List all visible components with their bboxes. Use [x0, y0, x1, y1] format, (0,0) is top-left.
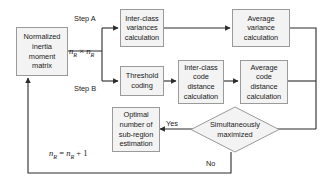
flowchart-diagram: Normalized inertia moment matrix Inter-c… [0, 0, 334, 187]
node-threshold-coding[interactable]: Threshold coding [120, 66, 164, 96]
edge-label-yes: Yes [166, 119, 178, 128]
node-label: Average variance calculation [233, 14, 289, 43]
edge-average-variance-to-collector [290, 28, 316, 129]
node-label: Normalized inertia moment matrix [17, 32, 67, 70]
node-optimal-number-of-sub-region-estimation[interactable]: Optimal number of sub-region estimation [112, 107, 160, 152]
node-average-code-distance-calculation[interactable]: Average code distance calculation [240, 60, 288, 104]
node-label: Threshold coding [121, 71, 163, 90]
node-label: Inter-class code distance calculation [179, 63, 223, 101]
node-label: Simultaneously maximized [190, 106, 280, 153]
node-average-variance-calculation[interactable]: Average variance calculation [232, 9, 290, 47]
node-label: Average code distance calculation [241, 63, 287, 101]
formula-matrix-size: nR × nR [69, 46, 94, 58]
edge-label-step-a: Step A [74, 14, 96, 23]
formula-increment-text: nR = nR + 1 [49, 148, 88, 158]
edge-label-step-b: Step B [74, 84, 96, 93]
node-simultaneously-maximized[interactable]: Simultaneously maximized [190, 106, 280, 153]
formula-matrix-size-text: nR × nR [69, 46, 94, 56]
formula-increment: nR = nR + 1 [49, 148, 88, 160]
node-normalized-inertia-moment-matrix[interactable]: Normalized inertia moment matrix [16, 27, 68, 76]
edge-label-no: No [206, 159, 215, 168]
node-inter-class-variances-calculation[interactable]: Inter-class variances calculation [120, 9, 164, 47]
node-label: Inter-class variances calculation [121, 14, 163, 43]
node-label: Optimal number of sub-region estimation [113, 110, 159, 148]
node-inter-class-code-distance-calculation[interactable]: Inter-class code distance calculation [178, 60, 224, 104]
